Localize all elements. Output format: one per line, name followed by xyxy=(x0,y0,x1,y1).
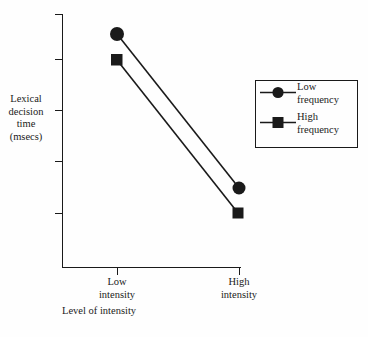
x-axis-category-label-low: Low intensity xyxy=(79,276,155,301)
y-axis-tick xyxy=(55,59,62,60)
legend-marker-square-icon xyxy=(259,116,297,129)
x-axis-line xyxy=(62,267,241,268)
legend-label-low-frequency: Low frequency xyxy=(297,81,357,106)
data-point-low-frequency-low-intensity xyxy=(110,27,124,41)
legend-marker-circle-icon xyxy=(259,86,297,99)
x-axis-title: Level of intensity xyxy=(62,305,212,318)
y-axis-title: Lexical decision time (msecs) xyxy=(0,93,52,143)
legend-item-high-frequency: High frequency xyxy=(256,114,357,144)
chart-legend: Low frequency High frequency xyxy=(255,80,358,148)
y-axis-tick xyxy=(55,110,62,111)
x-axis-tick-high xyxy=(239,268,240,275)
y-axis-tick xyxy=(55,213,62,214)
x-axis-tick-low xyxy=(117,268,118,275)
x-axis-category-label-high: High intensity xyxy=(201,276,277,301)
data-point-high-frequency-low-intensity xyxy=(111,54,123,66)
plot-area xyxy=(0,0,368,337)
y-axis-tick xyxy=(55,161,62,162)
line-chart-figure: Lexical decision time (msecs) Level of i… xyxy=(0,0,368,337)
legend-label-high-frequency: High frequency xyxy=(297,111,357,136)
data-point-high-frequency-high-intensity xyxy=(233,208,244,219)
legend-item-low-frequency: Low frequency xyxy=(256,84,357,114)
data-point-low-frequency-high-intensity xyxy=(233,182,246,195)
y-axis-tick xyxy=(55,14,62,15)
y-axis-line xyxy=(62,14,63,268)
series-line-low-frequency xyxy=(117,34,239,188)
series-line-high-frequency xyxy=(117,60,238,213)
